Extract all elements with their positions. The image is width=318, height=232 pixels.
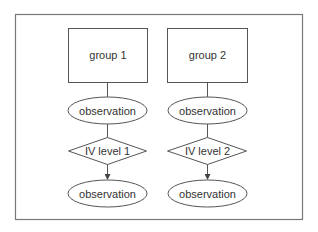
iv-label-2: IV level 2: [185, 145, 230, 157]
observation-label-top-2: observation: [179, 105, 236, 117]
group-label-1: group 1: [89, 49, 126, 61]
outer-frame: [16, 15, 303, 220]
diagram-canvas: group 1 observation IV level 1 observati…: [0, 0, 318, 232]
observation-label-top-1: observation: [79, 105, 136, 117]
observation-label-bottom-2: observation: [179, 188, 236, 200]
group-label-2: group 2: [189, 49, 226, 61]
iv-label-1: IV level 1: [85, 145, 130, 157]
observation-label-bottom-1: observation: [79, 188, 136, 200]
